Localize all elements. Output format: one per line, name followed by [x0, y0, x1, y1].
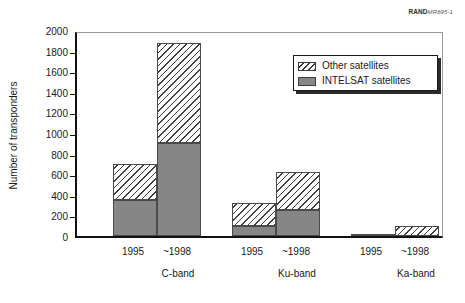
bar-c-band-1995 [113, 164, 157, 236]
bar-segment-intelsat-satellites [232, 226, 276, 236]
legend-label-other: Other satellites [322, 61, 389, 71]
bar-segment-other-satellites [351, 234, 395, 236]
y-axis-tick-labels: 0200400600800100012001400160018002000 [28, 0, 68, 303]
y-axis-title-label: Number of transponders [9, 81, 20, 189]
bar-ku-band-1998 [276, 172, 320, 236]
legend-swatch-intelsat-satellites-icon [298, 77, 316, 86]
bar-segment-intelsat-satellites [276, 210, 320, 236]
y-axis-tick-label: 1400 [34, 89, 68, 99]
x-axis-group-label-ku-band: Ku-band [252, 268, 342, 279]
x-axis-year-label-c-band-1998: ~1998 [147, 246, 207, 257]
bar-segment-other-satellites [157, 43, 201, 143]
legend-label-intelsat: INTELSAT satellites [322, 76, 411, 86]
figure-id-brand: RAND [408, 8, 427, 15]
y-axis-tick-label: 1000 [34, 130, 68, 140]
legend-item-other: Other satellites [298, 59, 433, 73]
x-axis-group-label-c-band: C-band [133, 268, 223, 279]
y-axis-tick-label: 2000 [34, 27, 68, 37]
chart-legend: Other satellites INTELSAT satellites [293, 55, 438, 91]
y-axis-tick-label: 400 [34, 192, 68, 202]
y-axis-tick-label: 600 [34, 171, 68, 181]
bar-c-band-1998 [157, 43, 201, 236]
figure-id: RANDMR695-1 [408, 8, 453, 15]
legend-item-intelsat: INTELSAT satellites [298, 74, 433, 88]
y-axis-tick-label: 800 [34, 151, 68, 161]
y-axis-tick-label: 200 [34, 212, 68, 222]
legend-swatch-other-satellites-icon [298, 62, 316, 71]
bar-segment-other-satellites [276, 172, 320, 210]
y-axis-tick-label: 1800 [34, 48, 68, 58]
bar-segment-other-satellites [395, 226, 439, 236]
figure-id-number: MR695-1 [428, 9, 453, 15]
y-axis-tick-label: 1600 [34, 68, 68, 78]
bar-segment-intelsat-satellites [157, 143, 201, 236]
y-axis-tick-label: 1200 [34, 109, 68, 119]
x-axis-group-label-ka-band: Ka-band [371, 268, 461, 279]
bar-ka-band-1995 [351, 234, 395, 236]
bar-segment-other-satellites [232, 203, 276, 226]
y-axis-title: Number of transponders [6, 32, 22, 238]
bar-segment-other-satellites [113, 164, 157, 200]
x-axis-year-label-ka-band-1998: ~1998 [385, 246, 445, 257]
bar-ku-band-1995 [232, 203, 276, 236]
bar-segment-intelsat-satellites [113, 200, 157, 236]
y-axis-tick-label: 0 [34, 233, 68, 243]
bar-ka-band-1998 [395, 226, 439, 236]
x-axis-year-label-ku-band-1998: ~1998 [266, 246, 326, 257]
